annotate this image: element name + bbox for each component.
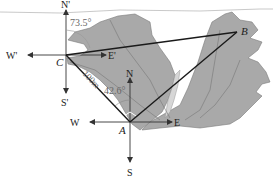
point-label-c: C (56, 56, 64, 68)
terrain (0, 9, 273, 130)
angle-label-a: 42.6° (104, 85, 126, 96)
point-label-b: B (241, 25, 248, 37)
label-west-prime: W' (6, 50, 17, 61)
point-label-a: A (118, 124, 126, 136)
diagram-canvas: N' S' W' E' 73.5° N S W E 42.6° 100m C A… (0, 0, 273, 184)
label-south: S (127, 167, 133, 178)
label-north-prime: N' (61, 0, 70, 10)
label-west: W (70, 117, 80, 128)
label-east-prime: E' (108, 50, 116, 61)
angle-label-c: 73.5° (70, 17, 92, 28)
label-east: E (174, 117, 180, 128)
label-south-prime: S' (61, 97, 69, 108)
label-north: N (126, 68, 133, 79)
